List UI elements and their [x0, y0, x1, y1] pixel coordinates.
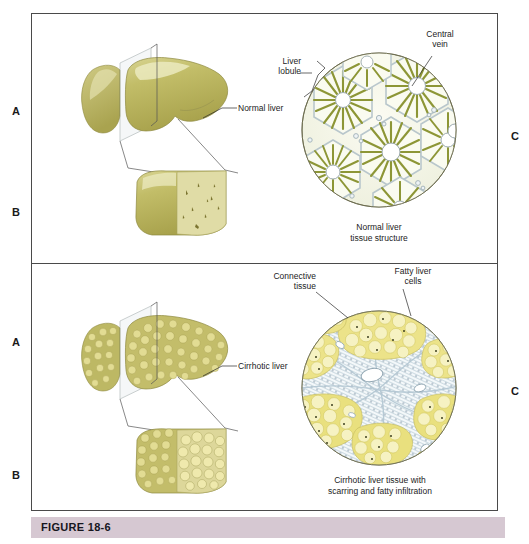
normal-tissue-caption: Normal liver tissue structure [329, 222, 429, 244]
cirrhotic-liver-tissue-circle [286, 307, 471, 479]
connective-tissue-label: Connective tissue [248, 271, 316, 291]
cirrhotic-liver-organ-label: Cirrhotic liver [238, 361, 288, 371]
cirrhotic-liver-whole-organ [82, 306, 228, 399]
cirrhotic-tissue-caption: Cirrhotic liver tissue with scarring and… [309, 475, 451, 497]
normal-liver-cut-block [136, 171, 226, 235]
normal-liver-whole-organ [82, 48, 228, 141]
central-vein-label: Central vein [414, 29, 466, 49]
cirrhotic-liver-cut-block [136, 429, 226, 493]
figure-number-label: FIGURE 18-6 [41, 521, 111, 533]
figure-caption-band: FIGURE 18-6 [31, 517, 505, 538]
figure-18-6: A B C A B C [0, 0, 529, 544]
normal-liver-organ-label: Normal liver [238, 103, 283, 113]
fatty-liver-cells-label: Fatty liver cells [383, 266, 443, 286]
normal-liver-tissue-circle [302, 34, 475, 239]
liver-lobule-label: Liver lobule [255, 56, 301, 76]
